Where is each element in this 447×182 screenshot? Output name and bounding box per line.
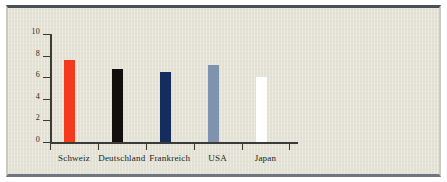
- y-tick: 0: [43, 142, 50, 143]
- x-tick: [242, 144, 243, 150]
- bar-deutschland: [112, 69, 123, 142]
- bar-frankreich: [160, 72, 171, 142]
- x-label-frankreich: Frankreich: [146, 153, 194, 163]
- x-tick: [194, 144, 195, 150]
- x-tick: [98, 144, 99, 150]
- x-axis-line: [50, 142, 298, 144]
- x-label-japan: Japan: [242, 153, 290, 163]
- bar-usa: [208, 65, 219, 142]
- chart-figure: 0246810 SchweizDeutschlandFrankreichUSAJ…: [0, 0, 447, 182]
- x-tick: [50, 144, 51, 150]
- x-tick: [146, 144, 147, 150]
- bar-series: [8, 8, 443, 142]
- bar-schweiz: [64, 60, 75, 142]
- x-tick: [289, 144, 290, 150]
- x-label-deutschland: Deutschland: [98, 153, 146, 163]
- x-label-usa: USA: [194, 153, 242, 163]
- chart-frame: 0246810 SchweizDeutschlandFrankreichUSAJ…: [6, 5, 441, 177]
- bar-japan: [256, 77, 267, 142]
- plot-area: 0246810 SchweizDeutschlandFrankreichUSAJ…: [8, 8, 443, 180]
- x-label-schweiz: Schweiz: [50, 153, 98, 163]
